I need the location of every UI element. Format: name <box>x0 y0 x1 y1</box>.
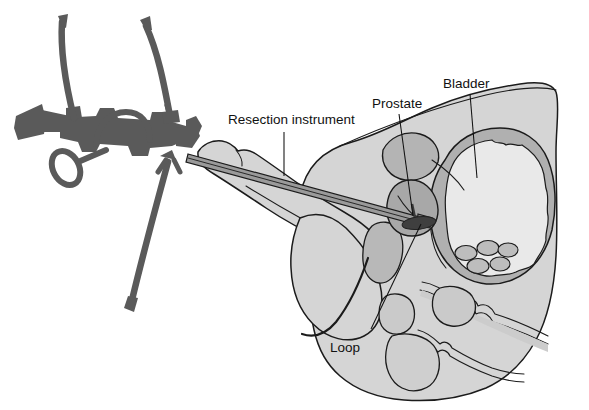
illustration-canvas: Resection instrument Prostate Bladder Lo… <box>0 0 589 410</box>
tubing-drain-descending <box>132 162 168 300</box>
label-prostate: Prostate <box>372 96 422 111</box>
eyepiece-funnel <box>14 104 46 140</box>
perineal-block-lower <box>386 334 440 391</box>
bowel-loop-5 <box>490 257 510 271</box>
tubing-inflow-left <box>62 22 74 118</box>
label-bladder: Bladder <box>443 76 490 91</box>
bowel-loop-4 <box>467 259 489 274</box>
bowel-loop-2 <box>477 241 499 256</box>
turp-diagram-svg: Resection instrument Prostate Bladder Lo… <box>0 0 589 410</box>
label-loop: Loop <box>330 340 360 355</box>
tubing-drain-tip <box>124 296 138 312</box>
seminal-vesicle-shape <box>383 133 439 180</box>
thumb-ring <box>46 146 86 190</box>
tubing-outflow-right <box>146 26 170 116</box>
label-resection-instrument: Resection instrument <box>228 112 355 127</box>
bowel-loop-1 <box>455 246 477 261</box>
tubing-clip <box>162 110 180 124</box>
bowel-loop-3 <box>498 243 518 257</box>
tubing-outflow-right-tip <box>140 16 152 30</box>
perineal-block-right <box>432 286 475 326</box>
